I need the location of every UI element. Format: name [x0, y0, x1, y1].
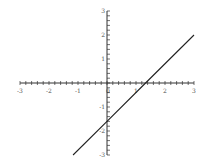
y-tick-label: 3: [101, 7, 105, 14]
line-chart: -3-2-11230 -3-2-1123: [0, 0, 208, 167]
x-tick-label: -3: [17, 87, 23, 94]
y-tick-label: -1: [99, 103, 105, 110]
x-tick-label: 2: [163, 87, 167, 94]
y-tick-label: 2: [101, 31, 105, 38]
x-tick-label: -2: [46, 87, 52, 94]
series-line: [73, 35, 194, 155]
x-tick-label: 3: [192, 87, 196, 94]
data-series: [73, 35, 194, 155]
x-tick-label: -1: [75, 87, 81, 94]
y-tick-label: -3: [99, 151, 105, 158]
y-tick-label: 1: [101, 55, 105, 62]
